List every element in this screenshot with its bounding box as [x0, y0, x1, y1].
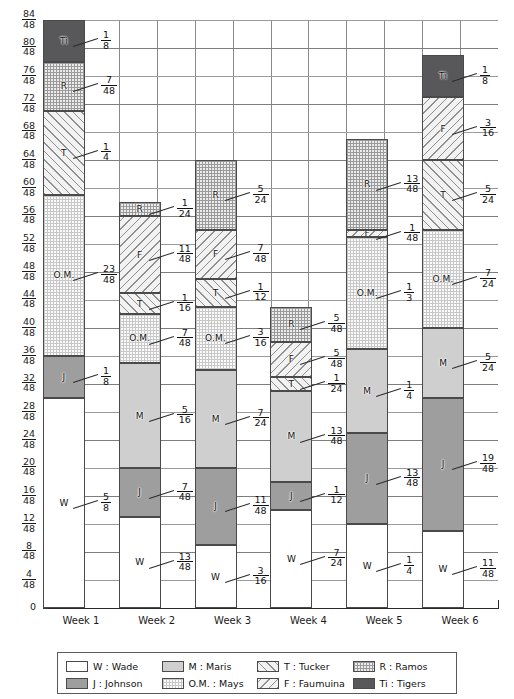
bar-week-6[interactable]: WJMO.M.TFTi [422, 20, 464, 608]
bar-segment-t[interactable]: T [422, 160, 464, 230]
segment-value-callout: 1348 [404, 174, 420, 194]
legend-item-W[interactable]: W : Wade [66, 661, 162, 672]
y-tick-label: 0 [2, 602, 36, 612]
bar-segment-f[interactable]: F [195, 230, 237, 279]
y-tick-label: 848 [2, 541, 36, 561]
x-axis-end-cap [498, 600, 499, 609]
bar-segment-j[interactable]: J [119, 468, 161, 517]
bar-segment-r[interactable]: R [43, 62, 85, 111]
legend-label-tucker: T : Tucker [284, 661, 330, 672]
bar-week-2[interactable]: WJMO.M.TFR [119, 20, 161, 608]
bar-segment-r[interactable]: R [346, 139, 388, 230]
bar-segment-label: F [347, 230, 387, 237]
bar-segment-om[interactable]: O.M. [346, 237, 388, 349]
y-tick-label: 2448 [2, 429, 36, 449]
y-tick-label: 4848 [2, 261, 36, 281]
segment-value-callout: 116 [177, 293, 193, 313]
bar-segment-j[interactable]: J [270, 482, 312, 510]
legend-label-tigers: Ti : Tigers [380, 678, 426, 689]
bar-segment-m[interactable]: M [195, 370, 237, 468]
bar-segment-r[interactable]: R [195, 160, 237, 230]
segment-value-callout: 748 [177, 482, 193, 502]
bar-segment-w[interactable]: W [422, 531, 464, 608]
y-tick-label: 2048 [2, 457, 36, 477]
bar-week-4[interactable]: WJMTFR [270, 20, 312, 608]
y-tick-label: 2848 [2, 401, 36, 421]
bar-segment-m[interactable]: M [422, 328, 464, 398]
y-tick-label: 4448 [2, 289, 36, 309]
bar-segment-om[interactable]: O.M. [422, 230, 464, 328]
legend-swatch-ramos-icon [353, 661, 375, 672]
legend-label-faumuina: F : Faumuina [284, 678, 345, 689]
y-tick-label: 3248 [2, 373, 36, 393]
segment-value-callout: 524 [480, 184, 496, 204]
bar-week-3[interactable]: WJMO.M.TFR [195, 20, 237, 608]
y-tick-label: 1248 [2, 513, 36, 533]
bar-segment-om[interactable]: O.M. [195, 307, 237, 370]
bar-segment-r[interactable]: R [270, 307, 312, 342]
bar-segment-m[interactable]: M [119, 363, 161, 468]
segment-value-callout: 1148 [253, 495, 269, 515]
segment-value-callout: 1348 [404, 468, 420, 488]
bar-segment-w[interactable]: W [346, 524, 388, 608]
segment-value-callout: 112 [253, 282, 269, 302]
bar-segment-ti[interactable]: Ti [422, 55, 464, 97]
bar-segment-t[interactable]: T [43, 111, 85, 195]
bar-segment-f[interactable]: F [422, 97, 464, 160]
legend-label-wade: W : Wade [93, 661, 138, 672]
x-axis-label-week-3: Week 3 [193, 615, 273, 626]
x-axis-line [43, 608, 499, 609]
bar-segment-j[interactable]: J [346, 433, 388, 524]
legend-item-Ti[interactable]: Ti : Tigers [353, 678, 449, 689]
y-tick-label: 7248 [2, 93, 36, 113]
legend-item-OM[interactable]: O.M. : Mays [162, 678, 258, 689]
legend-item-J[interactable]: J : Johnson [66, 678, 162, 689]
segment-value-callout: 748 [101, 75, 117, 95]
bar-segment-ti[interactable]: Ti [43, 20, 85, 62]
bar-segment-m[interactable]: M [270, 391, 312, 482]
bar-segment-t[interactable]: T [119, 293, 161, 314]
legend-swatch-johnson-icon [66, 678, 88, 689]
x-axis-label-week-5: Week 5 [344, 615, 424, 626]
y-tick-label: 448 [2, 569, 36, 589]
bar-segment-j[interactable]: J [195, 468, 237, 545]
legend-item-R[interactable]: R : Ramos [353, 661, 449, 672]
segment-value-callout: 14 [101, 142, 111, 162]
bar-segment-t[interactable]: T [195, 279, 237, 307]
legend-item-T[interactable]: T : Tucker [257, 661, 353, 672]
bar-segment-j[interactable]: J [43, 356, 85, 398]
legend-swatch-faumuina-icon [257, 678, 279, 689]
segment-value-callout: 548 [328, 348, 344, 368]
y-tick-label: 1648 [2, 485, 36, 505]
x-axis-label-week-6: Week 6 [420, 615, 500, 626]
bar-segment-om[interactable]: O.M. [43, 195, 85, 356]
legend-swatch-tucker-icon [257, 661, 279, 672]
segment-value-callout: 316 [253, 566, 269, 586]
bar-segment-w[interactable]: W [119, 517, 161, 608]
bar-segment-f[interactable]: F [119, 216, 161, 293]
bar-segment-j[interactable]: J [422, 398, 464, 531]
bar-segment-f[interactable]: F [270, 342, 312, 377]
bar-segment-t[interactable]: T [270, 377, 312, 391]
bar-week-1[interactable]: WJO.M.TRTi [43, 20, 85, 608]
bar-week-5[interactable]: WJMO.M.FR [346, 20, 388, 608]
bar-segment-m[interactable]: M [346, 349, 388, 433]
segment-value-callout: 13 [404, 282, 414, 302]
legend-item-M[interactable]: M : Maris [162, 661, 258, 672]
bar-segment-w[interactable]: W [195, 545, 237, 608]
segment-value-callout: 14 [404, 555, 414, 575]
legend-item-F[interactable]: F : Faumuina [257, 678, 353, 689]
y-tick-label: 6448 [2, 149, 36, 169]
legend: W : Wade M : Maris T : Tucker R : Ramos … [57, 652, 457, 694]
segment-value-callout: 14 [404, 380, 414, 400]
y-tick-label: 6848 [2, 121, 36, 141]
bar-segment-w[interactable]: W [270, 510, 312, 608]
bar-segment-om[interactable]: O.M. [119, 314, 161, 363]
segment-value-callout: 148 [404, 223, 420, 243]
bar-segment-w[interactable]: W [43, 398, 85, 608]
segment-value-callout: 316 [480, 118, 496, 138]
bar-segment-r[interactable]: R [119, 202, 161, 216]
segment-value-callout: 18 [101, 30, 111, 50]
segment-value-callout: 124 [177, 198, 193, 218]
segment-value-callout: 1348 [328, 426, 344, 446]
